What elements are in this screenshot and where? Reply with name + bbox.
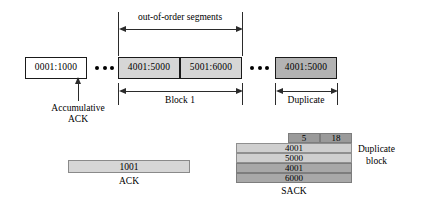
accumulative-ack-label-line2: ACK bbox=[33, 114, 123, 125]
sack-row-left-edge-2: 4001 bbox=[236, 163, 352, 173]
segment-box-block1-first: 4001:5000 bbox=[118, 57, 180, 79]
out-of-order-arrow-line bbox=[121, 29, 239, 30]
out-of-order-arrowhead-right bbox=[236, 26, 243, 32]
out-of-order-right-tick bbox=[242, 12, 243, 56]
duplicate-block-label-line2: block bbox=[366, 156, 387, 167]
accumulative-ack-arrowhead bbox=[75, 77, 81, 84]
duplicate-arrow-line bbox=[278, 91, 334, 92]
block1-arrow-line bbox=[121, 91, 239, 92]
duplicate-label: Duplicate bbox=[272, 95, 340, 106]
ellipsis-left bbox=[95, 66, 114, 70]
block1-arrowhead-left bbox=[119, 88, 126, 94]
accumulative-ack-label-line1: Accumulative bbox=[33, 103, 123, 114]
segment-box-duplicate: 4001:5000 bbox=[275, 57, 337, 79]
segment-box-accumulative: 0001:1000 bbox=[25, 57, 87, 79]
duplicate-arrowhead-left bbox=[276, 88, 283, 94]
duplicate-arrowhead-right bbox=[331, 88, 338, 94]
out-of-order-segments-label: out-of-order segments bbox=[118, 12, 242, 23]
sack-row-left-edge-3: 6000 bbox=[236, 173, 352, 183]
block1-right-tick bbox=[242, 83, 243, 105]
ack-bar: 1001 bbox=[68, 160, 190, 173]
accumulative-ack-arrow-shaft bbox=[78, 82, 79, 101]
segment-box-block1-second: 5001:6000 bbox=[180, 57, 242, 79]
ack-bar-caption: ACK bbox=[68, 176, 190, 187]
sack-caption: SACK bbox=[236, 186, 352, 197]
block1-arrowhead-right bbox=[236, 88, 243, 94]
sack-header-cell-length: 18 bbox=[320, 133, 352, 143]
duplicate-block-label-line1: Duplicate bbox=[358, 144, 395, 155]
block1-label: Block 1 bbox=[118, 95, 242, 106]
out-of-order-arrowhead-left bbox=[119, 26, 126, 32]
sack-header-cell-kind: 5 bbox=[288, 133, 320, 143]
sack-row-left-edge-0: 4001 bbox=[236, 143, 352, 153]
sack-row-left-edge-1: 5000 bbox=[236, 153, 352, 163]
diagram-canvas: out-of-order segments 0001:1000 4001:500… bbox=[0, 0, 421, 215]
ellipsis-right bbox=[250, 66, 269, 70]
